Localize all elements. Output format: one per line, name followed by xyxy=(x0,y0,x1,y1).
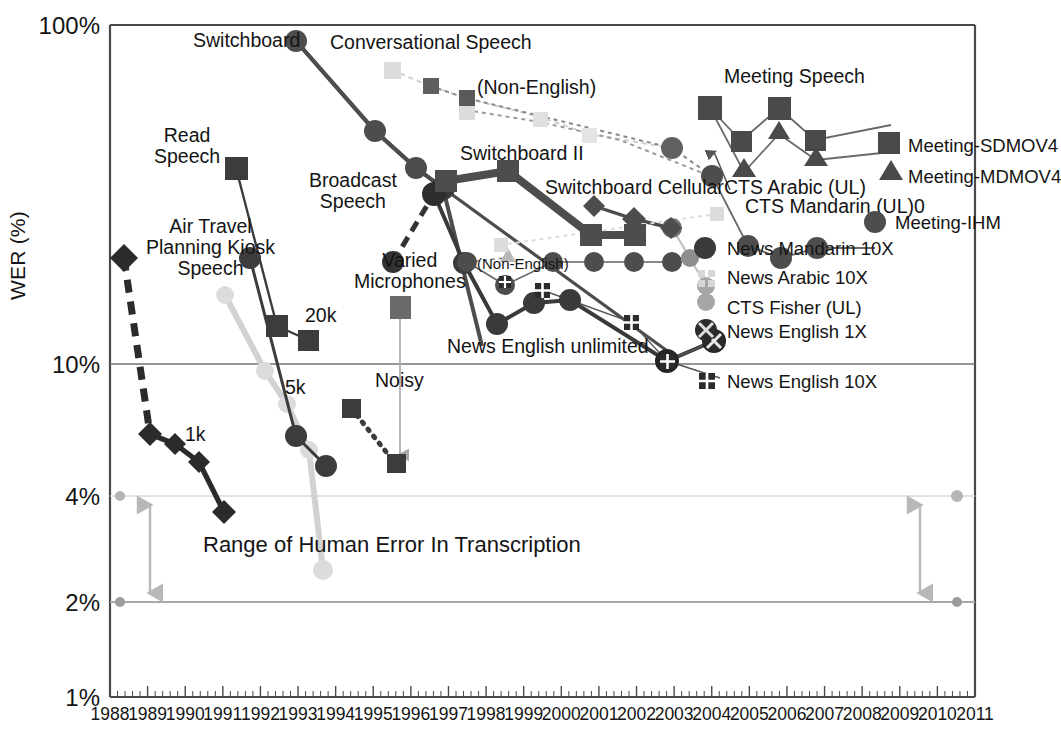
y-tick-100: 100% xyxy=(20,12,100,40)
annotation-conversational-speech: Conversational Speech xyxy=(330,32,532,53)
annotation-meeting-speech: Meeting Speech xyxy=(724,66,865,87)
annotation-switchboard: Switchboard xyxy=(193,30,300,51)
series-1k xyxy=(150,434,224,512)
annotation-news-english-unlimited: News English unlimited xyxy=(447,336,649,357)
gridlines xyxy=(110,364,975,602)
y-tick-10: 10% xyxy=(20,351,100,379)
y-tick-4: 4% xyxy=(20,483,100,511)
annotation-broadcast-speech: Broadcast Speech xyxy=(309,170,397,212)
legend-item-cts-fisher[interactable]: CTS Fisher (UL) xyxy=(727,297,862,319)
legend-item-news-english-10x[interactable]: News English 10X xyxy=(727,371,877,393)
legend-item-meeting-sdmov4[interactable]: Meeting-SDMOV4 xyxy=(908,135,1058,157)
annotation-20k: 20k xyxy=(305,305,336,326)
legend-item-news-arabic-10x[interactable]: News Arabic 10X xyxy=(727,267,868,289)
annotation-1k: 1k xyxy=(185,424,206,445)
legend-item-news-english-1x[interactable]: News English 1X xyxy=(727,321,867,343)
annotation-noisy: Noisy xyxy=(375,370,424,391)
annotation-switchboard-cellular: Switchboard Cellular xyxy=(545,177,724,198)
annotation-non-english-top: (Non-English) xyxy=(477,77,596,98)
y-axis-label: WER (%) xyxy=(6,211,30,300)
legend-item-news-mandarin-10x[interactable]: News Mandarin 10X xyxy=(727,238,894,260)
y-tick-2: 2% xyxy=(20,589,100,617)
annotation-air-travel: Air Travel Planning Kiosk Speech xyxy=(146,216,275,279)
annotation-varied-microphones: Varied Microphones xyxy=(354,250,466,292)
annotation-non-english-mid: (Non-English) xyxy=(477,256,569,272)
x-axis-ticks xyxy=(110,686,975,697)
legend-item-meeting-ihm[interactable]: Meeting-IHM xyxy=(895,212,1001,234)
series-news-arabic-10x xyxy=(500,214,716,245)
series-air-travel-kiosk xyxy=(124,258,150,434)
annotation-5k: 5k xyxy=(285,377,306,398)
annotation-read-speech: Read Speech xyxy=(154,125,220,167)
x-tick-2011: 2011 xyxy=(948,704,1002,725)
annotation-switchboard-ii: Switchboard II xyxy=(460,143,584,164)
legend-item-meeting-mdmov4[interactable]: Meeting-MDMOV4 xyxy=(908,166,1061,188)
annotation-human-error-range: Range of Human Error In Transcription xyxy=(203,532,581,558)
